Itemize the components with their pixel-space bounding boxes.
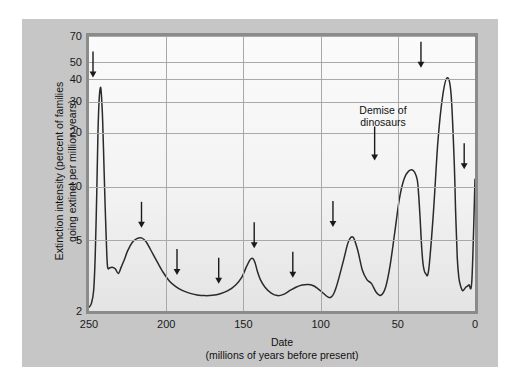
x-tick-label: 200: [157, 318, 175, 330]
y-tick-label: 30: [48, 96, 82, 107]
y-tick-label: 40: [48, 74, 82, 85]
event-arrow-icon: [90, 51, 97, 77]
event-arrow-icon: [138, 202, 145, 228]
x-tick-label: 0: [472, 318, 478, 330]
annotation-demise-of-dinosaurs: Demise of dinosaurs: [335, 104, 431, 128]
y-tick-label: 5: [48, 235, 82, 246]
x-tick-label: 50: [392, 318, 404, 330]
x-tick-label: 100: [311, 318, 329, 330]
event-arrow-icon: [418, 42, 425, 68]
x-axis-ticks: 250200150100500: [86, 318, 478, 334]
x-tick-label: 150: [234, 318, 252, 330]
y-axis-ticks: 25102030405070: [44, 33, 82, 314]
annotation-line2: dinosaurs: [360, 116, 406, 128]
y-tick-label: 50: [48, 57, 82, 68]
event-arrow-icon: [251, 222, 258, 248]
x-tick-label: 250: [80, 318, 98, 330]
y-tick-label: 2: [48, 306, 82, 317]
y-tick-label: 70: [48, 31, 82, 42]
event-arrow-icon: [461, 143, 468, 169]
x-axis-title-sub: (millions of years before present): [206, 349, 359, 361]
event-arrow-icon: [330, 201, 337, 227]
annotation-line1: Demise of: [359, 104, 406, 116]
event-arrow-icon: [289, 252, 296, 278]
x-axis-title: Date (millions of years before present): [86, 336, 478, 362]
y-tick-label: 20: [48, 127, 82, 138]
event-arrows: [89, 36, 475, 311]
plot-inner: [89, 36, 475, 311]
event-arrow-icon: [215, 258, 222, 284]
y-tick-label: 10: [48, 181, 82, 192]
event-arrow-icon: [174, 249, 181, 275]
plot-area: [86, 33, 478, 314]
x-axis-title-main: Date: [271, 336, 293, 348]
extinction-intensity-figure: Extinction intensity (percent of familie…: [0, 0, 513, 384]
event-arrow-icon: [371, 127, 378, 161]
